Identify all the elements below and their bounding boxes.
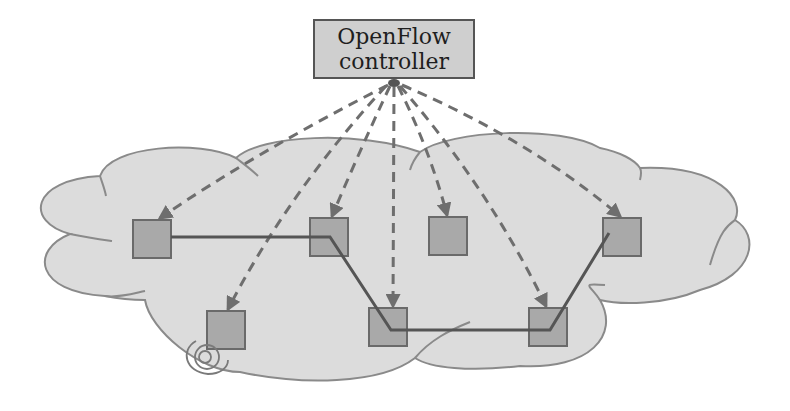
switch-s5[interactable] bbox=[207, 311, 245, 349]
openflow-network-diagram bbox=[0, 0, 790, 411]
openflow-controller-box bbox=[314, 20, 474, 78]
switch-s4[interactable] bbox=[603, 218, 641, 256]
switch-s1[interactable] bbox=[133, 220, 171, 258]
controller-hub-dot bbox=[388, 79, 400, 87]
switch-s3[interactable] bbox=[429, 217, 467, 255]
